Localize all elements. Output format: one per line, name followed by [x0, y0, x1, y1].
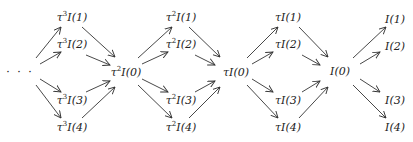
- node-I1: I(1): [385, 13, 405, 26]
- node-label: I(4): [67, 121, 87, 134]
- node-label: I(4): [281, 121, 301, 134]
- node-label: I(2): [67, 38, 87, 51]
- node-label: I(1): [385, 13, 405, 26]
- node-tI0: τI(0): [223, 66, 249, 79]
- arrow: [247, 85, 278, 118]
- node-t2I2: τ2I(2): [166, 37, 197, 51]
- node-label: I(4): [385, 121, 405, 134]
- arrow: [247, 27, 278, 58]
- arrow: [195, 81, 215, 92]
- arrow: [360, 52, 380, 64]
- node-I3: I(3): [385, 94, 405, 107]
- node-tI3: τI(3): [275, 94, 301, 107]
- node-t2I0: τ2I(0): [111, 65, 142, 79]
- arrow: [302, 55, 320, 65]
- arrow: [86, 55, 110, 65]
- node-label: I(3): [385, 94, 405, 107]
- node-label: I(1): [281, 11, 301, 24]
- node-label: I(3): [67, 94, 87, 107]
- node-t3I2: τ3I(2): [57, 37, 88, 51]
- node-I0: I(0): [330, 65, 350, 78]
- arrow: [40, 79, 61, 92]
- arrow: [142, 79, 168, 92]
- arrow: [299, 27, 328, 57]
- node-label: I(0): [229, 66, 249, 79]
- node-t2I4: τ2I(4): [166, 120, 197, 134]
- node-label: I(0): [121, 66, 141, 79]
- node-t2I1: τ2I(1): [166, 10, 197, 24]
- node-label: I(3): [176, 94, 196, 107]
- arrow: [142, 52, 168, 64]
- node-I4: I(4): [385, 121, 405, 134]
- arrow: [86, 81, 110, 92]
- node-label: I(1): [67, 11, 87, 24]
- commutative-diagram: · · · τ3I(1)τ3I(2)τ3I(3)τ3I(4)τ2I(0)τ2I(…: [0, 0, 413, 142]
- node-label: I(2): [385, 40, 405, 53]
- node-label: I(2): [176, 38, 196, 51]
- node-label: I(1): [176, 11, 196, 24]
- node-label: I(3): [281, 94, 301, 107]
- ellipsis: · · ·: [6, 66, 33, 79]
- arrow: [195, 55, 215, 65]
- arrow: [252, 79, 273, 92]
- node-label: I(2): [281, 38, 301, 51]
- arrow: [360, 79, 380, 92]
- node-label: I(4): [176, 121, 196, 134]
- arrow: [40, 52, 61, 64]
- node-t3I4: τ3I(4): [57, 120, 88, 134]
- node-I2: I(2): [385, 40, 405, 53]
- node-tI4: τI(4): [275, 121, 301, 134]
- node-tI1: τI(1): [275, 11, 301, 24]
- node-label: I(0): [330, 65, 350, 78]
- node-t2I3: τ2I(3): [166, 93, 197, 107]
- node-t3I3: τ3I(3): [57, 93, 88, 107]
- node-tI2: τI(2): [275, 38, 301, 51]
- arrow: [252, 52, 273, 64]
- arrow: [302, 81, 320, 92]
- arrow: [353, 27, 386, 58]
- arrow: [353, 85, 386, 118]
- node-t3I1: τ3I(1): [57, 10, 88, 24]
